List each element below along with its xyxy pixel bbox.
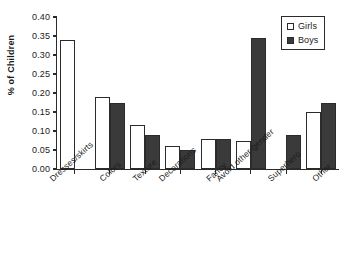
- y-axis-tick-mark: [53, 92, 57, 93]
- y-axis-tick: 0.35: [32, 31, 57, 41]
- y-axis-tick-mark: [53, 168, 57, 169]
- y-axis-tick-label: 0.20: [32, 88, 53, 98]
- figure-caption: [8, 250, 342, 255]
- legend: GirlsBoys: [281, 16, 325, 50]
- y-axis-tick-label: 0.35: [32, 31, 53, 41]
- bar-girls: [130, 125, 145, 169]
- y-axis-tick-label: 0.30: [32, 50, 53, 60]
- x-axis-tick-mark: [250, 169, 251, 174]
- y-axis-tick: 0.40: [32, 12, 57, 22]
- y-axis-tick-label: 0.15: [32, 107, 53, 117]
- y-axis-tick-label: 0.25: [32, 69, 53, 79]
- bar-group: [92, 17, 127, 169]
- y-axis-tick-mark: [53, 73, 57, 74]
- bar-girls: [201, 139, 216, 169]
- y-axis-tick-mark: [53, 111, 57, 112]
- bar-boys: [110, 103, 125, 170]
- y-axis-tick-label: 0.05: [32, 145, 53, 155]
- bar-girls: [60, 40, 75, 169]
- y-axis-tick: 0.20: [32, 88, 57, 98]
- x-axis-tick-mark: [180, 169, 181, 174]
- y-axis-tick-mark: [53, 54, 57, 55]
- y-axis-tick: 0.25: [32, 69, 57, 79]
- y-axis-tick-label: 0.00: [32, 164, 53, 174]
- legend-item: Boys: [287, 35, 318, 45]
- y-axis-tick: 0.30: [32, 50, 57, 60]
- legend-label: Girls: [298, 21, 317, 31]
- bar-group: [128, 17, 163, 169]
- y-axis-tick-label: 0.40: [32, 12, 53, 22]
- legend-swatch-girls: [287, 23, 294, 30]
- y-axis-title: % of Children: [6, 10, 16, 120]
- legend-label: Boys: [298, 35, 318, 45]
- bar-girls: [95, 97, 110, 169]
- bar-girls: [306, 112, 321, 169]
- y-axis-tick: 0.05: [32, 145, 57, 155]
- y-axis-tick-label: 0.10: [32, 126, 53, 136]
- y-axis-tick: 0.15: [32, 107, 57, 117]
- y-axis-tick: 0.00: [32, 164, 57, 174]
- legend-swatch-boys: [287, 37, 294, 44]
- x-axis-tick-mark: [74, 169, 75, 174]
- y-axis-tick-mark: [53, 35, 57, 36]
- legend-item: Girls: [287, 21, 318, 31]
- bar-chart-figure: % of Children Dresses/skirtsColorsTextur…: [0, 0, 350, 255]
- y-axis-tick-mark: [53, 130, 57, 131]
- y-axis-tick-mark: [53, 149, 57, 150]
- bar-group: [198, 17, 233, 169]
- y-axis-tick-mark: [53, 16, 57, 17]
- x-axis-tick-slot: [233, 169, 268, 174]
- bar-boys: [321, 103, 336, 170]
- y-axis-tick: 0.10: [32, 126, 57, 136]
